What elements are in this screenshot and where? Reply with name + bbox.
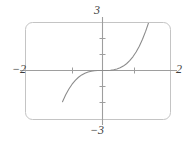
axis-label-top: 3 — [0, 4, 194, 16]
axis-label-bottom: −3 — [0, 124, 194, 136]
plot-canvas — [0, 0, 194, 142]
axis-label-right: 2 — [176, 63, 192, 75]
graph-figure: 3 −3 −2 2 — [0, 0, 194, 142]
axis-label-left: −2 — [4, 63, 26, 75]
